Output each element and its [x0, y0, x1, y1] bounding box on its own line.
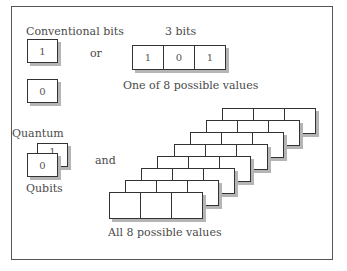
all-8-caption: All 8 possible values [108, 227, 222, 238]
cell [141, 193, 172, 218]
cell [172, 193, 202, 218]
cell [110, 193, 141, 218]
register-1 [109, 192, 203, 219]
